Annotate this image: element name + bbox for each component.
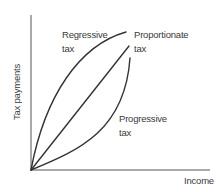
proportionate-label-line2: tax: [134, 43, 147, 54]
regressive-label-line2: tax: [62, 43, 75, 54]
regressive-label-line1: Regressive: [62, 29, 108, 40]
regressive-tax-curve: [31, 32, 126, 170]
y-axis-label: Tax payments: [11, 63, 22, 120]
progressive-tax-curve: [31, 58, 130, 170]
progressive-label-line1: Progressive: [119, 113, 167, 124]
tax-curves-diagram: Tax payments Income Regressive tax Propo…: [0, 0, 223, 192]
x-axis-label: Income: [184, 175, 214, 186]
progressive-label-line2: tax: [119, 127, 132, 138]
proportionate-tax-line: [31, 46, 129, 170]
proportionate-label-line1: Proportionate: [134, 29, 188, 40]
